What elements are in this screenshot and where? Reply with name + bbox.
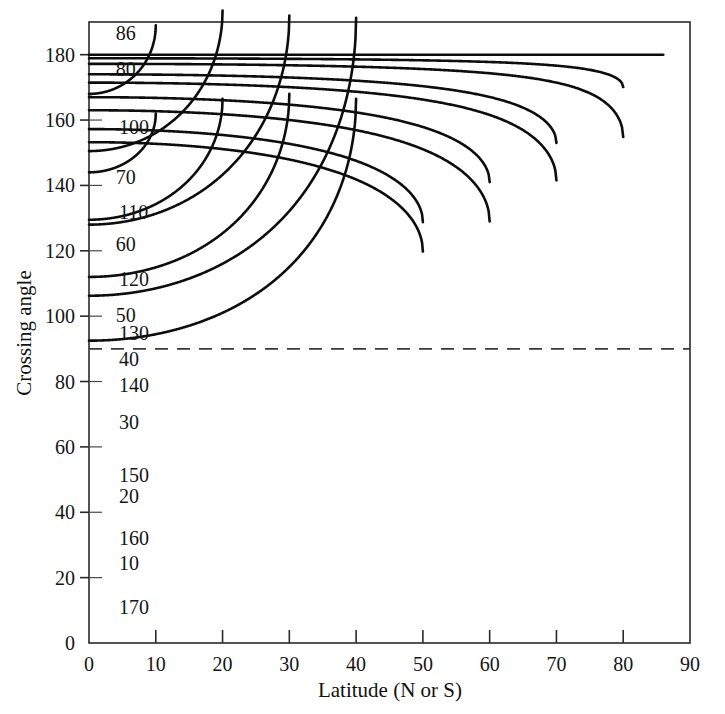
curve-label-10: 10	[119, 552, 139, 574]
x-tick-label-40: 40	[346, 653, 366, 675]
curve-label-40: 40	[119, 348, 139, 370]
curve-label-86: 86	[116, 22, 136, 44]
crossing-angle-latitude-plot: 8680100701106012050130401403015020160101…	[0, 0, 725, 714]
curve-label-20: 20	[119, 485, 139, 507]
curve-label-30: 30	[119, 411, 139, 433]
curve-label-70: 70	[116, 166, 136, 188]
y-tick-label-140: 140	[45, 174, 75, 196]
y-tick-label-60: 60	[55, 436, 75, 458]
y-axis-title: Crossing angle	[12, 270, 36, 395]
curve-label-150: 150	[119, 464, 149, 486]
x-axis-title: Latitude (N or S)	[318, 678, 462, 702]
y-tick-label-group: 020406080100120140160180	[45, 44, 75, 654]
y-tick-label-100: 100	[45, 305, 75, 327]
x-tick-label-20: 20	[213, 653, 233, 675]
curve-label-170: 170	[119, 596, 149, 618]
curve-120	[89, 110, 490, 221]
x-tick-label-10: 10	[146, 653, 166, 675]
curve-label-120: 120	[119, 268, 149, 290]
x-tick-label-90: 90	[680, 653, 700, 675]
y-tick-label-180: 180	[45, 44, 75, 66]
chart-figure: 8680100701106012050130401403015020160101…	[0, 0, 725, 714]
y-axis-ticks	[80, 55, 102, 578]
x-tick-label-70: 70	[546, 653, 566, 675]
curve-label-100: 100	[119, 116, 149, 138]
y-tick-label-80: 80	[55, 371, 75, 393]
y-tick-label-0: 0	[65, 632, 75, 654]
x-tick-label-60: 60	[480, 653, 500, 675]
curve-label-110: 110	[119, 201, 148, 223]
curve-label-130: 130	[119, 322, 149, 344]
curve-group	[89, 11, 663, 341]
x-tick-label-80: 80	[613, 653, 633, 675]
curve-label-160: 160	[119, 527, 149, 549]
y-tick-label-160: 160	[45, 109, 75, 131]
x-tick-label-30: 30	[279, 653, 299, 675]
x-axis-ticks	[156, 630, 623, 643]
y-tick-label-20: 20	[55, 567, 75, 589]
curve-label-140: 140	[119, 374, 149, 396]
x-tick-label-0: 0	[84, 653, 94, 675]
y-tick-label-120: 120	[45, 240, 75, 262]
curve-label-80: 80	[116, 58, 136, 80]
curve-label-60: 60	[116, 233, 136, 255]
x-tick-label-group: 0102030405060708090	[84, 653, 700, 675]
x-tick-label-50: 50	[413, 653, 433, 675]
y-tick-label-40: 40	[55, 501, 75, 523]
